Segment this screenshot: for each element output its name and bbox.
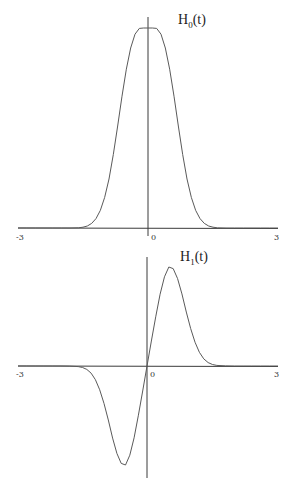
chart-title: H0(t) [178,12,206,30]
chart-title: H1(t) [180,249,208,267]
x-tick-label: -3 [16,233,24,242]
chart-h1: -3 0 3 H1(t) [16,249,279,478]
x-tick-label: 0 [150,370,155,379]
x-tick-label: 3 [274,370,279,379]
x-tick-label: -3 [16,370,24,379]
chart-canvas: -3 0 3 H0(t) -3 0 3 H1(t) [0,0,297,491]
x-tick-label: 3 [274,233,279,242]
x-tick-label: 0 [151,233,156,242]
chart-h0: -3 0 3 H0(t) [16,12,279,242]
